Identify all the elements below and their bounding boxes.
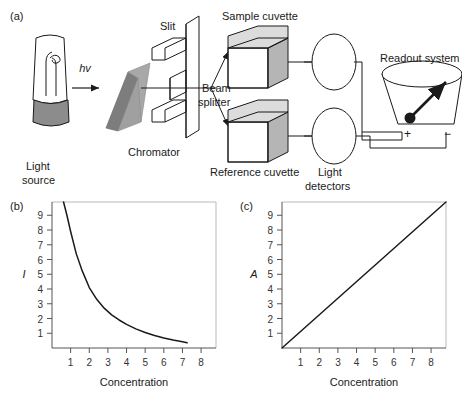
x-axis-label: Concentration (330, 376, 399, 388)
photon-label: hv (79, 62, 92, 74)
x-tick-label: 5 (142, 357, 148, 368)
y-tick-label: 2 (37, 314, 43, 325)
x-tick-label: 6 (391, 357, 397, 368)
y-tick-label: 6 (267, 255, 273, 266)
y-tick-label: 7 (267, 240, 273, 251)
beam-splitter-label-line1: Beam (202, 82, 231, 94)
light-source-lamp (33, 35, 69, 126)
panel-b-chart: 12345678912345678IConcentration (0, 196, 230, 404)
y-tick-label: 9 (267, 210, 273, 221)
y-tick-label: 3 (37, 299, 43, 310)
y-tick-label: 9 (37, 210, 43, 221)
meter-pivot (405, 113, 416, 124)
readout-system-label: Readout system (380, 52, 459, 64)
y-tick-label: 8 (37, 225, 43, 236)
x-tick-label: 2 (86, 357, 92, 368)
data-curve (282, 202, 446, 348)
y-tick-label: 5 (37, 269, 43, 280)
chromator-label: Chromator (128, 146, 180, 158)
prism-monochromator (106, 63, 150, 131)
terminal-negative-label: − (444, 128, 451, 140)
light-detector-sample (312, 34, 356, 90)
sample-cuvette (228, 26, 288, 88)
y-tick-label: 2 (267, 314, 273, 325)
light-detector-reference (312, 108, 356, 164)
x-tick-label: 2 (316, 357, 322, 368)
x-tick-label: 4 (124, 357, 130, 368)
x-axis-label: Concentration (100, 376, 169, 388)
x-tick-label: 8 (428, 357, 434, 368)
detectors-label-line2: detectors (305, 180, 350, 192)
y-tick-label: 1 (37, 328, 43, 339)
x-tick-label: 3 (105, 357, 111, 368)
x-tick-label: 3 (335, 357, 341, 368)
x-tick-label: 6 (161, 357, 167, 368)
y-tick-label: 6 (37, 255, 43, 266)
y-tick-label: 3 (267, 299, 273, 310)
sample-cuvette-label: Sample cuvette (222, 10, 298, 22)
x-tick-label: 8 (198, 357, 204, 368)
x-tick-label: 7 (410, 357, 416, 368)
y-tick-label: 5 (267, 269, 273, 280)
figure-spectrophotometer: (a) hv (0, 0, 462, 404)
data-curve (64, 202, 188, 343)
y-tick-label: 4 (37, 284, 43, 295)
x-tick-label: 5 (372, 357, 378, 368)
x-tick-label: 4 (354, 357, 360, 368)
y-tick-label: 1 (267, 328, 273, 339)
y-tick-label: 4 (267, 284, 273, 295)
y-tick-label: 8 (267, 225, 273, 236)
reference-cuvette (228, 100, 288, 162)
slit-label: Slit (160, 20, 175, 32)
readout-meter (382, 61, 462, 124)
x-tick-label: 1 (298, 357, 304, 368)
x-tick-label: 1 (68, 357, 74, 368)
y-axis-label: A (249, 268, 257, 280)
terminal-positive-label: + (404, 128, 411, 140)
slit-assembly (152, 16, 199, 138)
x-tick-label: 7 (180, 357, 186, 368)
beam-splitter-label-line2: splitter (198, 96, 230, 108)
light-source-label-line1: Light (26, 160, 50, 172)
detectors-label-line1: Light (318, 166, 342, 178)
reference-cuvette-label: Reference cuvette (210, 166, 299, 178)
light-source-label-line2: source (22, 174, 55, 186)
panel-c-chart: 12345678912345678AConcentration (230, 196, 462, 404)
y-axis-label: I (22, 268, 25, 280)
y-tick-label: 7 (37, 240, 43, 251)
